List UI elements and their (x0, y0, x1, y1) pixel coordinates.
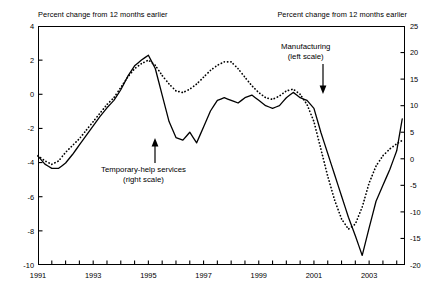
left-axis-title: Percent change from 12 months earlier (38, 10, 168, 19)
x-tick-1999: 1999 (239, 271, 279, 280)
left-tick--2: -2 (12, 124, 34, 133)
plot-area (38, 26, 405, 265)
x-tick-2001: 2001 (294, 271, 334, 280)
right-tick--5: -5 (410, 181, 431, 190)
annotation-manufacturing-line2: (left scale) (281, 52, 330, 62)
annotation-manufacturing: Manufacturing (left scale) (281, 42, 330, 61)
left-tick--10: -10 (12, 261, 34, 270)
annotation-temporary-help-line1: Temporary-help services (101, 165, 186, 175)
annotation-temporary-help: Temporary-help services (right scale) (101, 165, 186, 184)
chart-container: Percent change from 12 months earlier Pe… (0, 0, 431, 294)
right-axis-title: Percent change from 12 months earlier (277, 10, 407, 19)
x-tick-2003: 2003 (349, 271, 389, 280)
x-tick-1997: 1997 (184, 271, 224, 280)
x-tick-1991: 1991 (18, 271, 58, 280)
right-tick-10: 10 (410, 101, 431, 110)
annotation-temporary-help-line2: (right scale) (101, 175, 186, 185)
right-tick-5: 5 (410, 128, 431, 137)
right-tick--15: -15 (410, 234, 431, 243)
right-tick-25: 25 (410, 22, 431, 31)
x-tick-1993: 1993 (73, 271, 113, 280)
right-tick-20: 20 (410, 48, 431, 57)
left-tick-2: 2 (12, 56, 34, 65)
left-tick--8: -8 (12, 227, 34, 236)
annotation-manufacturing-line1: Manufacturing (281, 42, 330, 52)
right-tick--10: -10 (410, 208, 431, 217)
left-tick--4: -4 (12, 158, 34, 167)
left-tick-0: 0 (12, 90, 34, 99)
right-tick-0: 0 (410, 155, 431, 164)
left-tick-4: 4 (12, 22, 34, 31)
x-tick-1995: 1995 (128, 271, 168, 280)
right-tick--20: -20 (410, 261, 431, 270)
left-tick--6: -6 (12, 193, 34, 202)
right-tick-15: 15 (410, 75, 431, 84)
